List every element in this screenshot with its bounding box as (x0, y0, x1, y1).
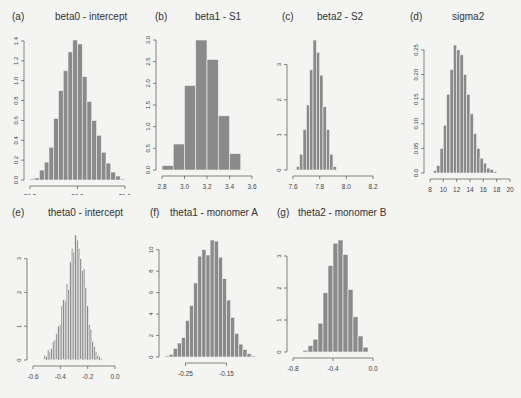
histogram-bar (447, 94, 450, 173)
histogram-bar (243, 349, 247, 357)
histogram-bar (330, 154, 333, 170)
histogram-bar (353, 317, 358, 352)
histogram-bar (59, 91, 64, 180)
histogram-bar (470, 114, 473, 173)
histogram-bar (310, 70, 313, 170)
histogram-bar (440, 148, 443, 173)
histogram-bar (316, 52, 319, 170)
histogram-bar (318, 323, 323, 352)
histogram-bar (165, 356, 169, 357)
histogram-bar (490, 170, 493, 173)
panel-c: (c) beta2 - S2 01237.67.88.08.2 (260, 0, 390, 195)
y-tick-label: 1.5 (145, 100, 151, 109)
panel-b: (b) beta1 - S1 0.00.51.01.52.02.53.02.83… (130, 0, 260, 195)
histogram-bar (296, 166, 299, 170)
x-tick-label: 14 (466, 186, 474, 193)
histogram-bar (437, 166, 440, 173)
y-tick-label: 1 (276, 133, 282, 137)
histogram-bar (106, 163, 111, 180)
x-tick-label: -0.2 (82, 373, 94, 380)
histogram-bar (306, 105, 309, 170)
histogram-bar (493, 172, 496, 173)
histogram-e: 0123-0.6-0.4-0.20.0 (0, 195, 130, 398)
histogram-bar (308, 346, 313, 352)
histogram-bar (49, 147, 54, 180)
y-tick-label: 3.0 (145, 35, 151, 44)
histogram-bar (328, 266, 333, 352)
histogram-bar (467, 94, 470, 173)
panel-e: (e) theta0 - intercept 0123-0.6-0.4-0.20… (0, 195, 130, 398)
y-tick-label: 1.0 (13, 76, 19, 85)
y-tick-label: 3 (16, 256, 22, 260)
histogram-bar (487, 168, 490, 173)
y-tick-label: 0.8 (13, 96, 19, 105)
histogram-bar (54, 118, 59, 180)
histogram-bar (210, 240, 214, 357)
y-tick-label: 3 (276, 254, 282, 258)
histogram-bar (320, 75, 323, 170)
bars (433, 45, 496, 173)
histogram-bar (477, 148, 480, 173)
histogram-bar (227, 300, 231, 357)
x-tick-label: 7.6 (288, 183, 297, 190)
histogram-bar (333, 166, 336, 170)
histogram-bar (443, 125, 446, 173)
y-tick-label: 0.25 (413, 43, 419, 55)
histogram-bar (44, 162, 49, 180)
x-tick-label: 3.4 (225, 183, 234, 190)
histogram-bar (40, 170, 45, 180)
histogram-bar (230, 154, 241, 170)
histogram-bar (480, 158, 483, 173)
histogram-bar (120, 179, 125, 180)
bars (44, 235, 102, 360)
x-tick-label: 18 (493, 186, 501, 193)
x-tick-label: 3.2 (202, 183, 211, 190)
histogram-bar (78, 44, 83, 180)
y-tick-label: 0.2 (13, 155, 19, 164)
y-tick-label: 0.05 (413, 142, 419, 154)
x-tick-label: 8.0 (342, 183, 351, 190)
histogram-bar (363, 347, 368, 352)
y-tick-label: 0.0 (145, 165, 151, 174)
histogram-bar (303, 350, 308, 352)
histogram-b: 0.00.51.01.52.02.53.02.83.03.23.43.6 (130, 0, 260, 195)
y-tick-label: 0.0 (413, 168, 419, 177)
histogram-bar (173, 144, 184, 170)
y-tick-label: 0 (276, 350, 282, 354)
y-tick-label: 0.10 (413, 117, 419, 129)
histogram-bar (73, 40, 78, 180)
histogram-bar (116, 176, 121, 180)
histogram-c: 01237.67.88.08.2 (260, 0, 390, 195)
histogram-bar (235, 333, 239, 357)
bars (165, 240, 255, 357)
bars (30, 40, 125, 180)
x-tick-label: 0.0 (110, 373, 119, 380)
y-tick-label: 1.0 (145, 122, 151, 131)
x-tick-label: 20 (506, 186, 514, 193)
histogram-bar (173, 348, 177, 357)
histogram-bar (185, 86, 196, 171)
x-tick-label: -0.25 (178, 370, 193, 377)
histogram-bar (177, 343, 181, 357)
histogram-bar (247, 354, 251, 357)
histogram-bar (231, 317, 235, 357)
histogram-bar (338, 240, 343, 352)
x-tick-label: 16 (480, 186, 488, 193)
x-tick-label: 3.6 (247, 183, 256, 190)
histogram-bar (473, 134, 476, 173)
histogram-d: 0.00.050.100.150.200.258101214161820 (390, 0, 521, 195)
y-tick-label: 0 (16, 358, 22, 362)
panel-a: (a) beta0 - intercept 0.00.20.40.60.81.0… (0, 0, 130, 195)
histogram-bar (169, 354, 173, 357)
histogram-bar (222, 279, 226, 357)
y-tick-label: 6 (148, 290, 154, 294)
histogram-bar (198, 256, 202, 357)
histogram-bar (218, 257, 222, 357)
y-tick-label: 0 (148, 355, 154, 359)
y-tick-label: 0.4 (13, 135, 19, 144)
y-tick-label: 1 (276, 318, 282, 322)
histogram-bar (97, 135, 102, 180)
histogram-bar (35, 178, 40, 180)
y-tick-label: 3 (276, 62, 282, 66)
histogram-bar (460, 55, 463, 173)
